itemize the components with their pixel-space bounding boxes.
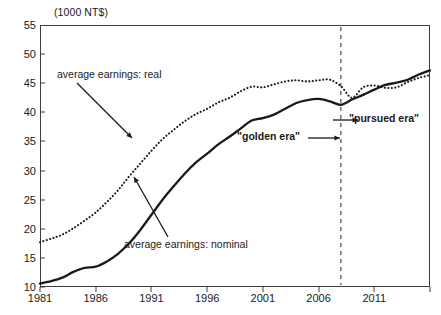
chart-figure: (1000 NT$) 10152025303540455055 19811986… (0, 0, 441, 315)
x-tick-label: 1996 (195, 292, 219, 304)
x-tick-label: 2011 (362, 292, 386, 304)
series-layer (40, 70, 430, 283)
series-line (40, 75, 430, 242)
y-tick-label: 55 (2, 19, 36, 31)
nominal-label-leader (134, 177, 168, 237)
y-tick-label: 40 (2, 106, 36, 118)
x-tick-label: 1986 (83, 292, 107, 304)
y-tick-label: 35 (2, 135, 36, 147)
x-tick-mark (374, 287, 375, 292)
x-tick-mark (318, 287, 319, 292)
annotation-golden-era-label: "golden era" (237, 130, 300, 142)
x-tick-mark (430, 287, 431, 292)
y-tick-label: 25 (2, 194, 36, 206)
series-line (40, 70, 430, 283)
annotation-nominal-label: average earnings: nominal (124, 238, 248, 250)
x-tick-mark (207, 287, 208, 292)
y-tick-label: 45 (2, 77, 36, 89)
x-tick-label: 1991 (139, 292, 163, 304)
real-label-leader (77, 83, 132, 138)
golden-era-arrow (308, 135, 340, 140)
x-tick-mark (262, 287, 263, 292)
y-axis-tick-labels: 10152025303540455055 (0, 0, 36, 315)
x-tick-label: 2006 (306, 292, 330, 304)
annotation-real-label: average earnings: real (57, 68, 161, 80)
y-tick-label: 20 (2, 223, 36, 235)
annotation-pursued-era-label: "pursued era" (349, 112, 419, 124)
y-tick-label: 15 (2, 252, 36, 264)
x-tick-label: 2001 (251, 292, 275, 304)
y-tick-label: 50 (2, 48, 36, 60)
x-tick-mark (95, 287, 96, 292)
x-tick-mark (151, 287, 152, 292)
x-tick-mark (40, 287, 41, 292)
y-tick-label: 30 (2, 165, 36, 177)
y-axis-unit-title: (1000 NT$) (54, 6, 108, 18)
x-tick-label: 1981 (28, 292, 52, 304)
